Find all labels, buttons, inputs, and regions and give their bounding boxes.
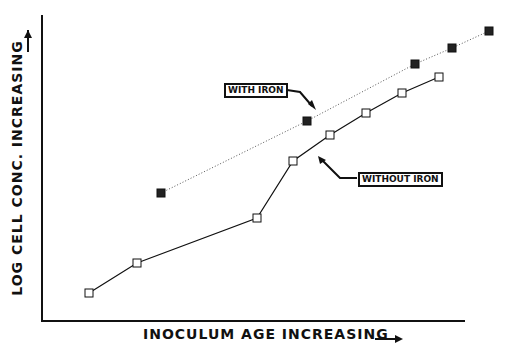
data-point (485, 27, 493, 35)
data-point (411, 60, 419, 68)
data-point (398, 89, 406, 97)
data-point (362, 109, 370, 117)
without-iron-label: WITHOUT IRON (358, 172, 443, 187)
data-point (289, 157, 297, 165)
data-point (326, 131, 334, 139)
series-with-iron (161, 31, 489, 193)
x-axis-label: INOCULUM AGE INCREASING (143, 326, 389, 342)
with-iron-label: WITH IRON (224, 83, 288, 98)
data-point (448, 44, 456, 52)
data-point (303, 117, 311, 125)
y-axis-label: LOG CELL CONC. INCREASING (9, 33, 25, 303)
data-point (133, 259, 141, 267)
data-point (157, 189, 165, 197)
data-point (253, 214, 261, 222)
data-point (85, 289, 93, 297)
data-point (435, 73, 443, 81)
